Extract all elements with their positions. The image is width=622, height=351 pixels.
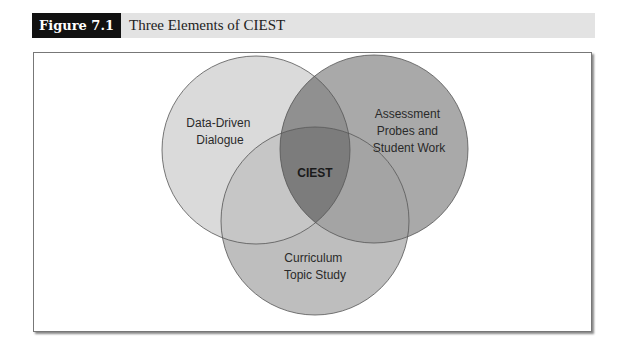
venn-diagram: Data-Driven Dialogue Assessment Probes a… xyxy=(0,0,622,351)
label-ciest-center: CIEST xyxy=(297,166,333,180)
label-assessment-probes: Assessment Probes and Student Work xyxy=(373,107,446,155)
